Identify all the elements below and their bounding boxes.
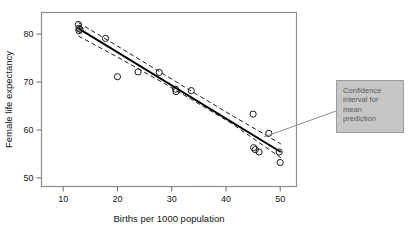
y-tick-label: 70 [23,77,33,87]
annotation-line-3: mean [343,105,398,114]
plot-frame [42,13,297,187]
data-point [114,74,120,80]
figure-root: 102030405050607080Births per 1000 popula… [0,0,411,230]
y-axis-title: Female life expectancy [3,51,14,148]
x-tick-label: 50 [275,194,285,204]
annotation-leader-line [264,111,336,137]
data-point [250,111,256,117]
confidence-interval-annotation: Confidence interval for mean prediction [336,80,404,133]
x-tick-label: 40 [221,194,231,204]
x-tick-label: 30 [167,194,177,204]
y-tick-label: 50 [23,173,33,183]
annotation-line-2: interval for [343,95,398,104]
data-point [135,69,141,75]
x-tick-label: 20 [112,194,122,204]
annotation-line-4: prediction [343,114,398,123]
data-point [277,159,283,165]
x-tick-label: 10 [58,194,68,204]
confidence-band-lower [78,36,280,158]
data-point [156,69,162,75]
annotation-line-1: Confidence [343,86,398,95]
data-point [251,145,257,151]
regression-line [78,28,280,152]
x-axis-title: Births per 1000 population [114,213,225,224]
y-tick-label: 80 [23,29,33,39]
confidence-band-upper [78,23,280,144]
y-tick-label: 60 [23,125,33,135]
